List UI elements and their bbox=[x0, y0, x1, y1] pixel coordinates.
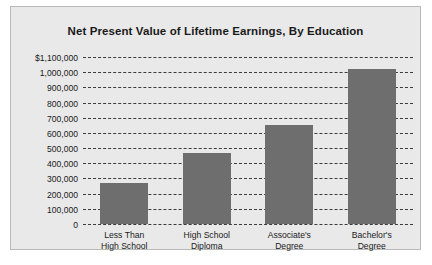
bar-group: High SchoolDiploma bbox=[166, 57, 249, 224]
y-axis-tick-label: 200,000 bbox=[47, 190, 78, 200]
y-axis-tick-label: 700,000 bbox=[47, 114, 78, 124]
y-axis-tick-label: 1,000,000 bbox=[40, 68, 78, 78]
x-axis-tick-label: Bachelor'sDegree bbox=[352, 230, 392, 252]
y-axis-tick-label: 500,000 bbox=[47, 144, 78, 154]
y-axis-tick-label: 900,000 bbox=[47, 83, 78, 93]
y-axis-tick-label: 400,000 bbox=[47, 159, 78, 169]
y-axis-tick-label: $1,100,000 bbox=[35, 53, 78, 63]
chart-panel: Net Present Value of Lifetime Earnings, … bbox=[10, 6, 421, 250]
bars-layer: Less ThanHigh SchoolHigh SchoolDiplomaAs… bbox=[83, 57, 413, 224]
bar-group: Bachelor'sDegree bbox=[331, 57, 414, 224]
bar bbox=[348, 69, 396, 224]
gridline: 0 bbox=[83, 224, 413, 225]
bar bbox=[100, 183, 148, 224]
x-axis-tick-label: High SchoolDiploma bbox=[184, 230, 230, 252]
y-axis-tick-label: 600,000 bbox=[47, 129, 78, 139]
x-axis-tick-label: Associate'sDegree bbox=[268, 230, 311, 252]
bar bbox=[183, 153, 231, 224]
bar-group: Less ThanHigh School bbox=[83, 57, 166, 224]
y-axis-tick-label: 800,000 bbox=[47, 99, 78, 109]
x-axis-tick-label: Less ThanHigh School bbox=[101, 230, 147, 252]
y-axis-tick-label: 100,000 bbox=[47, 205, 78, 215]
y-axis-tick-label: 0 bbox=[73, 220, 78, 230]
bar bbox=[265, 125, 313, 224]
bar-group: Associate'sDegree bbox=[248, 57, 331, 224]
plot-area: $1,100,0001,000,000900,000800,000700,000… bbox=[83, 57, 413, 224]
chart-title: Net Present Value of Lifetime Earnings, … bbox=[11, 25, 420, 37]
y-axis-tick-label: 300,000 bbox=[47, 174, 78, 184]
